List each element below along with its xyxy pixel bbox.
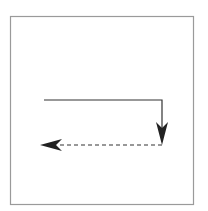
diagram-canvas — [0, 0, 208, 211]
solid-arrow-line — [44, 100, 162, 132]
arrowhead-left-icon — [40, 139, 62, 151]
frame-border — [11, 17, 194, 205]
